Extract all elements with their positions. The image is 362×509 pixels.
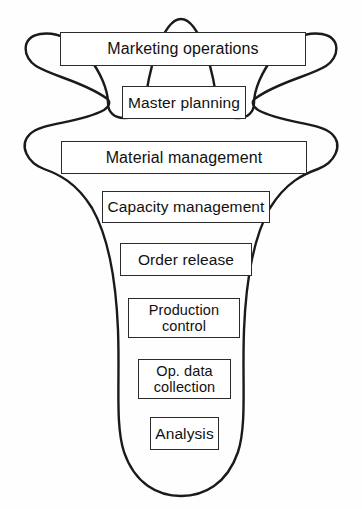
stage-label: Master planning bbox=[128, 94, 240, 111]
stage-label: Marketing operations bbox=[107, 40, 258, 58]
stage-label: Order release bbox=[138, 251, 234, 268]
stage-box-marketing-operations[interactable]: Marketing operations bbox=[60, 32, 306, 66]
stage-label: Op. data collection bbox=[154, 363, 215, 395]
stage-label: Capacity management bbox=[108, 198, 265, 215]
stage-box-production-control[interactable]: Production control bbox=[128, 298, 240, 338]
stage-box-capacity-management[interactable]: Capacity management bbox=[102, 191, 270, 223]
stage-label: Material management bbox=[106, 149, 263, 167]
stage-box-op-data-collection[interactable]: Op. data collection bbox=[138, 359, 231, 399]
stage-label: Production control bbox=[149, 302, 219, 334]
stage-label: Analysis bbox=[155, 425, 214, 442]
funnel-diagram: Marketing operations Master planning Mat… bbox=[0, 0, 362, 509]
stage-box-master-planning[interactable]: Master planning bbox=[122, 86, 246, 119]
stage-box-material-management[interactable]: Material management bbox=[61, 141, 307, 174]
stage-box-analysis[interactable]: Analysis bbox=[150, 417, 219, 450]
stage-box-order-release[interactable]: Order release bbox=[120, 243, 252, 276]
